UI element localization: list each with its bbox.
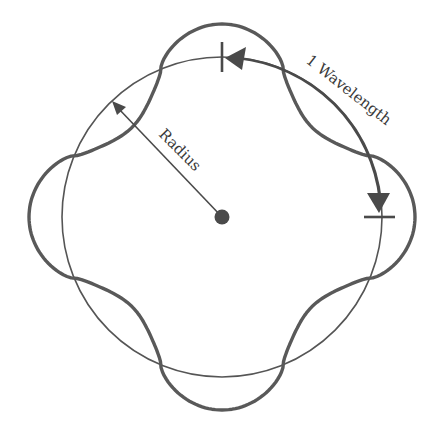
radius-label: Radius	[155, 125, 205, 175]
center-dot	[215, 210, 230, 225]
arrowhead-down-icon	[367, 193, 390, 213]
wavelength-arc	[238, 58, 380, 200]
orbit-wave-diagram: Radius 1 Wavelength	[0, 0, 429, 432]
radius-arrow	[112, 101, 222, 217]
radius-arrowhead-icon	[112, 101, 126, 115]
arrowhead-left-icon	[225, 47, 246, 70]
